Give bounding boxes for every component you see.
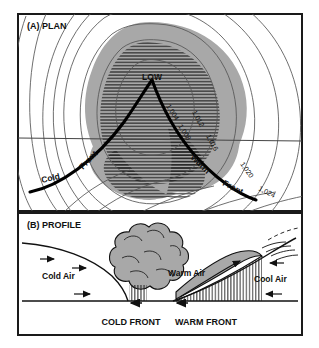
cold-air-label: Cold Air (42, 271, 75, 281)
profile-panel: Cold Air Warm Air Cool Air COLD FRONT WA… (18, 213, 302, 335)
plan-panel-label: (A) PLAN (27, 21, 67, 31)
warm-front-caption: WARM FRONT (175, 317, 237, 327)
weather-front-figure: LOW Cold Front Warm Front 1,004 1,008 1,… (0, 0, 319, 348)
warm-air-label-line1: Warm Air (168, 268, 206, 278)
cold-front-caption: COLD FRONT (102, 317, 161, 327)
cumulonimbus-cloud (109, 223, 188, 289)
profile-panel-label: (B) PROFILE (27, 220, 81, 230)
low-pressure-label: LOW (142, 72, 163, 82)
cool-air-label: Cool Air (254, 274, 287, 284)
cold-front-precipitation (129, 285, 147, 301)
